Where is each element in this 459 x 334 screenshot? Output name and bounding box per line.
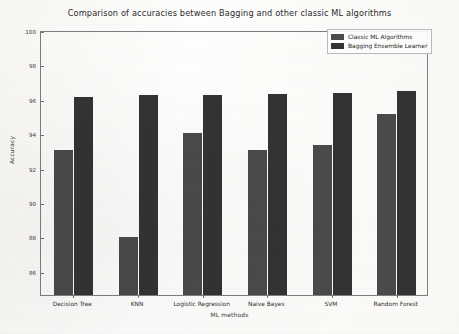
y-tick-label: 94: [29, 132, 41, 138]
legend-entry: Classic ML Algorithms: [331, 32, 427, 41]
x-axis-label: ML methods: [0, 312, 459, 318]
bar: [139, 95, 158, 295]
x-tick-mark: [73, 295, 74, 298]
bar: [74, 97, 93, 295]
x-tick-mark: [203, 295, 204, 298]
y-axis-label: Accuracy: [9, 136, 15, 164]
x-tick-label: KNN: [131, 301, 144, 307]
y-tick-label: 90: [29, 201, 41, 207]
legend-entry: Bagging Ensemble Learner: [331, 41, 427, 50]
bar: [119, 237, 138, 296]
chart-figure: Comparison of accuracies between Bagging…: [0, 0, 459, 334]
bar: [248, 150, 267, 295]
x-tick-label: Random Forest: [373, 301, 417, 307]
chart-legend: Classic ML AlgorithmsBagging Ensemble Le…: [327, 29, 432, 54]
y-tick-label: 92: [29, 167, 41, 173]
bar: [268, 94, 287, 295]
x-tick-mark: [267, 295, 268, 298]
legend-swatch: [331, 34, 344, 40]
legend-label: Bagging Ensemble Learner: [348, 43, 427, 49]
y-tick-label: 88: [29, 235, 41, 241]
bar: [397, 91, 416, 295]
y-tick-label: 96: [29, 98, 41, 104]
x-tick-label: Logistic Regression: [173, 301, 230, 307]
bar: [203, 95, 222, 295]
x-tick-mark: [397, 295, 398, 298]
bar: [377, 114, 396, 295]
y-tick-label: 100: [25, 29, 41, 35]
x-tick-mark: [138, 295, 139, 298]
x-tick-mark: [332, 295, 333, 298]
bar: [54, 150, 73, 295]
x-tick-label: Naive Bayes: [248, 301, 284, 307]
plot-area: 10098969492908886: [40, 31, 428, 296]
bar: [313, 145, 332, 295]
bar: [183, 133, 202, 295]
x-tick-label: SVM: [325, 301, 338, 307]
y-tick-label: 86: [29, 270, 41, 276]
bar: [333, 93, 352, 295]
legend-label: Classic ML Algorithms: [348, 34, 412, 40]
y-tick-label: 98: [29, 63, 41, 69]
chart-title: Comparison of accuracies between Bagging…: [0, 8, 459, 18]
x-tick-label: Decision Tree: [53, 301, 92, 307]
legend-swatch: [331, 43, 344, 49]
